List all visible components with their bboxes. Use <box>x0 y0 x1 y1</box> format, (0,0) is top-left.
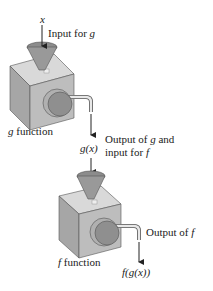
middle-label-line1: Output of g and <box>105 133 174 145</box>
input-variable: x <box>40 13 45 25</box>
g-function-label: g function <box>8 125 53 137</box>
g-of-x-label: g(x) <box>80 142 98 154</box>
f-of-g-of-x-label: f(g(x)) <box>122 266 150 278</box>
middle-label-line2: input for f <box>105 146 149 158</box>
f-function-machine <box>59 171 139 258</box>
output-label: Output of f <box>146 226 194 238</box>
input-label: Input for g <box>48 27 95 39</box>
f-function-label: f function <box>58 256 100 268</box>
g-function-machine <box>10 42 91 130</box>
